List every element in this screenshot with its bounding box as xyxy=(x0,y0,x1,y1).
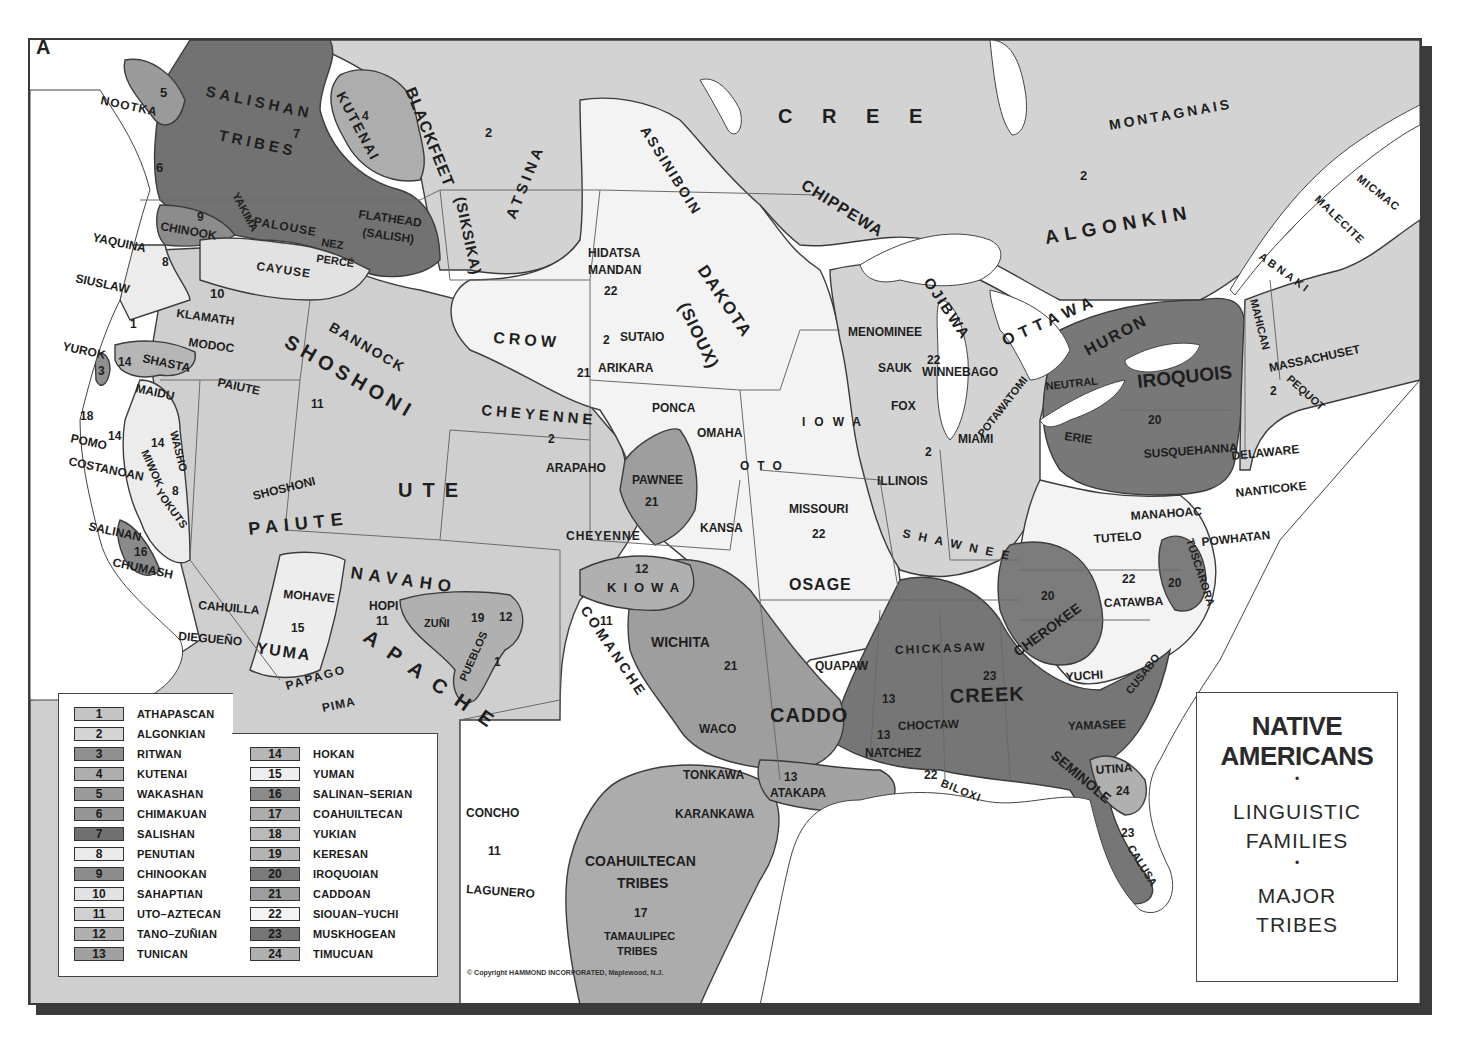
legend-swatch: 5 xyxy=(74,787,124,801)
map-label: CHOCTAW xyxy=(898,717,960,733)
title-line-1: NATIVE xyxy=(1197,711,1397,741)
map-label: 15 xyxy=(291,621,305,635)
legend-swatch: 11 xyxy=(74,907,124,921)
legend-item: 22SIOUAN–YUCHI xyxy=(250,906,399,922)
legend-item: 21CADDOAN xyxy=(250,886,371,902)
map-label: 10 xyxy=(210,286,224,301)
legend-label: TIMUCUAN xyxy=(313,948,373,960)
legend-label: TANO–ZUÑIAN xyxy=(137,928,217,940)
map-label: WACO xyxy=(699,722,736,736)
map-label: 5 xyxy=(160,85,167,100)
legend-item: 14HOKAN xyxy=(250,746,354,762)
legend-swatch: 19 xyxy=(250,847,300,861)
map-label: 20 xyxy=(1168,576,1182,590)
legend-label: YUMAN xyxy=(313,768,354,780)
legend-item: 16SALINAN–SERIAN xyxy=(250,786,412,802)
map-label: 21 xyxy=(724,659,738,673)
bullet-icon: • xyxy=(1197,855,1397,871)
subtitle-major: MAJOR xyxy=(1197,881,1397,910)
map-label: 22 xyxy=(604,284,618,298)
legend-label: IROQUOIAN xyxy=(313,868,378,880)
map-label: PONCA xyxy=(652,401,696,415)
legend-item: 2ALGONKIAN xyxy=(74,726,205,742)
map-label: TONKAWA xyxy=(683,768,744,782)
map-label: 11 xyxy=(376,614,389,628)
legend-label: WAKASHAN xyxy=(137,788,203,800)
legend-item: 19KERESAN xyxy=(250,846,368,862)
legend-item: 18YUKIAN xyxy=(250,826,356,842)
map-label: 2 xyxy=(548,432,555,446)
map-label: FOX xyxy=(891,399,916,413)
map-label: 20 xyxy=(1041,589,1055,603)
map-label: 22 xyxy=(1122,572,1136,586)
map-label: ARIKARA xyxy=(598,361,654,375)
map-label: 21 xyxy=(645,495,659,509)
map-label: 9 xyxy=(197,210,204,224)
legend-swatch: 8 xyxy=(74,847,124,861)
legend-label: YUKIAN xyxy=(313,828,356,840)
legend-item: 12TANO–ZUÑIAN xyxy=(74,926,217,942)
legend: 1ATHAPASCAN2ALGONKIAN3RITWAN4KUTENAI5WAK… xyxy=(58,693,438,977)
title-box: NATIVE AMERICANS • LINGUISTIC FAMILIES •… xyxy=(1196,692,1398,982)
map-label: CONCHO xyxy=(466,806,519,820)
map-label: 18 xyxy=(80,409,94,423)
map-label: 7 xyxy=(293,126,300,141)
map-label: HIDATSA xyxy=(588,246,641,260)
map-label: MIAMI xyxy=(958,432,993,446)
legend-swatch: 2 xyxy=(74,727,124,741)
map-label: 6 xyxy=(156,160,163,175)
map-label: OTO xyxy=(740,459,790,473)
map-label: TRIBES xyxy=(617,875,668,891)
legend-label: SIOUAN–YUCHI xyxy=(313,908,399,920)
legend-swatch: 12 xyxy=(74,927,124,941)
bullet-icon: • xyxy=(1197,771,1397,787)
legend-label: HOKAN xyxy=(313,748,354,760)
map-label: 8 xyxy=(172,484,179,498)
map-label: 2 xyxy=(925,445,932,459)
map-label: MICMAC xyxy=(1355,172,1403,213)
legend-label: SALINAN–SERIAN xyxy=(313,788,412,800)
map-label: 1 xyxy=(130,317,137,331)
legend-label: ALGONKIAN xyxy=(137,728,205,740)
map-label: 14 xyxy=(108,429,122,443)
map-label: 1 xyxy=(494,655,501,669)
legend-item: 10SAHAPTIAN xyxy=(74,886,203,902)
subtitle-tribes: TRIBES xyxy=(1197,910,1397,939)
map-label: ATAKAPA xyxy=(770,786,826,800)
legend-item: 9CHINOOKAN xyxy=(74,866,207,882)
map-label: YAMASEE xyxy=(1068,717,1127,733)
map-label: 22 xyxy=(812,527,826,541)
map-label: 24 xyxy=(1116,784,1130,798)
map-label: ZUÑI xyxy=(424,617,450,629)
map-label: NANTICOKE xyxy=(1235,479,1307,500)
legend-swatch: 15 xyxy=(250,767,300,781)
map-label: YUCHI xyxy=(1065,667,1103,684)
map-label: WINNEBAGO xyxy=(922,365,998,379)
legend-item: 13TUNICAN xyxy=(74,946,188,962)
map-label: OMAHA xyxy=(697,426,743,440)
map-label: IOWA xyxy=(802,415,870,429)
legend-label: RITWAN xyxy=(137,748,182,760)
legend-swatch: 17 xyxy=(250,807,300,821)
legend-label: CHIMAKUAN xyxy=(137,808,207,820)
legend-label: ATHAPASCAN xyxy=(137,708,214,720)
map-label: 19 xyxy=(471,611,485,625)
map-label: SAUK xyxy=(878,361,912,375)
legend-item: 11UTO–AZTECAN xyxy=(74,906,221,922)
map-label: QUAPAW xyxy=(815,659,869,673)
legend-item: 20IROQUOIAN xyxy=(250,866,378,882)
map-label: 12 xyxy=(499,610,513,624)
map-label: 14 xyxy=(118,355,132,369)
map-label: ILLINOIS xyxy=(877,474,928,488)
map-label: CADDO xyxy=(770,704,848,726)
map-label: 2 xyxy=(1080,168,1087,183)
map-label: KARANKAWA xyxy=(675,807,755,821)
legend-item: 24TIMUCUAN xyxy=(250,946,373,962)
legend-label: TUNICAN xyxy=(137,948,188,960)
legend-swatch: 13 xyxy=(74,947,124,961)
legend-item: 6CHIMAKUAN xyxy=(74,806,207,822)
map-label: HOPI xyxy=(369,599,398,613)
map-label: C R E E xyxy=(778,105,934,127)
legend-label: CADDOAN xyxy=(313,888,371,900)
legend-label: COAHUILTECAN xyxy=(313,808,403,820)
